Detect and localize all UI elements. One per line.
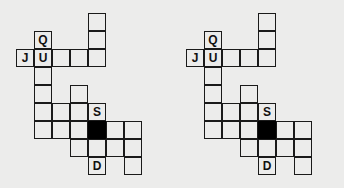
crossword-empty-cell[interactable] — [70, 49, 88, 67]
crossword-empty-cell[interactable] — [106, 121, 124, 139]
crossword-letter-cell[interactable]: Q — [204, 31, 222, 49]
crossword-grid-left: QJUSD — [0, 0, 172, 188]
crossword-empty-cell[interactable] — [124, 121, 142, 139]
crossword-blocked-cell — [88, 121, 106, 139]
crossword-empty-cell[interactable] — [52, 103, 70, 121]
crossword-empty-cell[interactable] — [70, 121, 88, 139]
crossword-empty-cell[interactable] — [276, 139, 294, 157]
crossword-empty-cell[interactable] — [240, 121, 258, 139]
crossword-empty-cell[interactable] — [240, 85, 258, 103]
crossword-letter-cell[interactable]: U — [34, 49, 52, 67]
crossword-empty-cell[interactable] — [34, 67, 52, 85]
crossword-cell-letter: S — [263, 106, 271, 118]
crossword-letter-cell[interactable]: S — [258, 103, 276, 121]
crossword-grid-right: QJUSD — [170, 0, 342, 188]
crossword-empty-cell[interactable] — [222, 49, 240, 67]
crossword-empty-cell[interactable] — [240, 139, 258, 157]
crossword-empty-cell[interactable] — [88, 49, 106, 67]
crossword-empty-cell[interactable] — [70, 139, 88, 157]
crossword-blocked-cell — [258, 121, 276, 139]
crossword-empty-cell[interactable] — [276, 121, 294, 139]
crossword-empty-cell[interactable] — [294, 139, 312, 157]
crossword-letter-cell[interactable]: D — [258, 157, 276, 175]
crossword-empty-cell[interactable] — [258, 139, 276, 157]
crossword-empty-cell[interactable] — [106, 139, 124, 157]
crossword-empty-cell[interactable] — [222, 103, 240, 121]
crossword-letter-cell[interactable]: U — [204, 49, 222, 67]
crossword-empty-cell[interactable] — [258, 13, 276, 31]
crossword-empty-cell[interactable] — [88, 139, 106, 157]
crossword-empty-cell[interactable] — [204, 67, 222, 85]
crossword-cell-letter: U — [209, 52, 218, 64]
crossword-letter-cell[interactable]: J — [16, 49, 34, 67]
crossword-empty-cell[interactable] — [204, 85, 222, 103]
crossword-cell-letter: Q — [38, 34, 47, 46]
crossword-empty-cell[interactable] — [70, 85, 88, 103]
crossword-empty-cell[interactable] — [222, 121, 240, 139]
crossword-cell-letter: J — [22, 52, 29, 64]
crossword-letter-cell[interactable]: Q — [34, 31, 52, 49]
crossword-empty-cell[interactable] — [124, 139, 142, 157]
crossword-empty-cell[interactable] — [294, 157, 312, 175]
crossword-empty-cell[interactable] — [240, 103, 258, 121]
crossword-empty-cell[interactable] — [204, 103, 222, 121]
crossword-letter-cell[interactable]: S — [88, 103, 106, 121]
crossword-cell-letter: D — [93, 160, 102, 172]
crossword-empty-cell[interactable] — [294, 121, 312, 139]
crossword-empty-cell[interactable] — [34, 103, 52, 121]
crossword-letter-cell[interactable]: J — [186, 49, 204, 67]
crossword-empty-cell[interactable] — [240, 49, 258, 67]
crossword-empty-cell[interactable] — [34, 85, 52, 103]
crossword-letter-cell[interactable]: D — [88, 157, 106, 175]
crossword-cell-letter: S — [93, 106, 101, 118]
crossword-canvas: QJUSDQJUSD — [0, 0, 344, 188]
crossword-empty-cell[interactable] — [34, 121, 52, 139]
crossword-empty-cell[interactable] — [52, 121, 70, 139]
crossword-empty-cell[interactable] — [204, 121, 222, 139]
crossword-empty-cell[interactable] — [258, 31, 276, 49]
crossword-empty-cell[interactable] — [258, 49, 276, 67]
crossword-empty-cell[interactable] — [88, 31, 106, 49]
crossword-empty-cell[interactable] — [88, 13, 106, 31]
crossword-cell-letter: U — [39, 52, 48, 64]
crossword-empty-cell[interactable] — [124, 157, 142, 175]
crossword-cell-letter: Q — [208, 34, 217, 46]
crossword-cell-letter: J — [192, 52, 199, 64]
crossword-cell-letter: D — [263, 160, 272, 172]
crossword-empty-cell[interactable] — [70, 103, 88, 121]
crossword-empty-cell[interactable] — [52, 49, 70, 67]
